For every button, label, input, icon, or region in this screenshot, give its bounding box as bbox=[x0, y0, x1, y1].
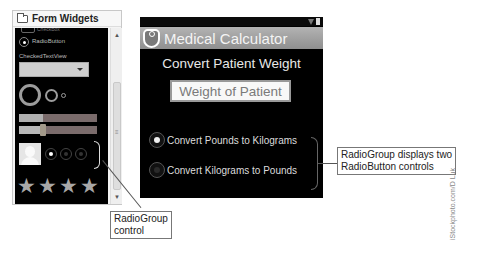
callout-line: control bbox=[114, 225, 168, 237]
action-bar: Medical Calculator bbox=[140, 27, 323, 49]
callout-radiogroup-control: RadioGroup control bbox=[110, 211, 172, 239]
grip-icon: ≡ bbox=[115, 131, 119, 134]
radio-unchecked-icon[interactable] bbox=[149, 162, 165, 178]
weight-of-patient-input[interactable] bbox=[170, 80, 291, 102]
ratingbar-widget[interactable]: ★ ★ ★ ★ bbox=[17, 175, 99, 197]
form-widgets-palette: Form Widgets CheckBox RadioButton Checke… bbox=[12, 10, 122, 205]
progressbar-medium-widget[interactable] bbox=[45, 89, 58, 102]
progressbar-small-widget[interactable] bbox=[61, 93, 66, 98]
star-icon: ★ bbox=[59, 175, 78, 197]
progressbar-large-widget[interactable] bbox=[19, 84, 41, 106]
scroll-up-arrow-icon[interactable]: ▲ bbox=[113, 31, 121, 39]
radio-pounds-to-kilograms[interactable]: Convert Pounds to Kilograms bbox=[149, 132, 297, 148]
phone-screen: Medical Calculator Convert Patient Weigh… bbox=[140, 17, 323, 198]
app-title: Medical Calculator bbox=[164, 30, 287, 47]
callout-line: RadioGroup bbox=[114, 213, 168, 225]
radiogroup-brace bbox=[94, 141, 100, 169]
checkbox-widget-label: CheckBox bbox=[37, 28, 60, 32]
spinner-widget[interactable] bbox=[19, 62, 89, 77]
radiogroup-widget-radio-2[interactable] bbox=[60, 148, 72, 160]
scroll-down-arrow-icon[interactable]: ▼ bbox=[113, 193, 121, 201]
palette-header[interactable]: Form Widgets bbox=[13, 11, 121, 27]
radio-kilograms-to-pounds[interactable]: Convert Kilograms to Pounds bbox=[149, 162, 297, 178]
radio-checked-icon[interactable] bbox=[149, 132, 165, 148]
checkbox-widget[interactable] bbox=[21, 28, 35, 33]
callout-line: RadioButton controls bbox=[341, 161, 452, 173]
radiogroup-widget-radio-3[interactable] bbox=[75, 148, 87, 160]
person-icon bbox=[25, 146, 35, 157]
callout-leader-line bbox=[318, 163, 337, 164]
battery-icon bbox=[316, 18, 320, 25]
progressbar-horizontal-widget[interactable] bbox=[19, 114, 97, 122]
folder-icon bbox=[17, 15, 28, 23]
dropdown-arrow-icon bbox=[77, 68, 83, 71]
radiogroup-brace bbox=[311, 137, 318, 190]
seekbar-widget[interactable] bbox=[19, 126, 97, 134]
signal-icon bbox=[308, 19, 314, 25]
radio-label: Convert Pounds to Kilograms bbox=[167, 135, 297, 146]
star-icon: ★ bbox=[17, 175, 36, 197]
callout-line: RadioGroup displays two bbox=[341, 149, 452, 161]
radiobutton-widget[interactable] bbox=[19, 37, 29, 47]
progress-fill bbox=[19, 114, 43, 122]
photo-credit: iStockphoto.com/D Luk bbox=[449, 168, 456, 240]
radio-label: Convert Kilograms to Pounds bbox=[167, 165, 297, 176]
star-icon: ★ bbox=[80, 175, 99, 197]
widget-preview-area: CheckBox RadioButton CheckedTextView ★ ★… bbox=[15, 28, 108, 204]
checkedtextview-widget-label: CheckedTextView bbox=[19, 53, 67, 59]
palette-title: Form Widgets bbox=[32, 13, 99, 24]
star-icon: ★ bbox=[38, 175, 57, 197]
status-bar bbox=[140, 17, 323, 26]
person-body-icon bbox=[21, 157, 39, 165]
quickcontactbadge-widget[interactable] bbox=[19, 143, 41, 165]
screen-heading: Convert Patient Weight bbox=[140, 56, 323, 71]
callout-radiogroup-displays: RadioGroup displays two RadioButton cont… bbox=[337, 147, 456, 175]
scale-app-icon bbox=[143, 29, 160, 48]
radiobutton-widget-label: RadioButton bbox=[32, 38, 65, 44]
seekbar-thumb[interactable] bbox=[40, 124, 46, 136]
radiogroup-widget-radio-1[interactable] bbox=[45, 148, 57, 160]
scale-dial-icon bbox=[149, 31, 155, 37]
